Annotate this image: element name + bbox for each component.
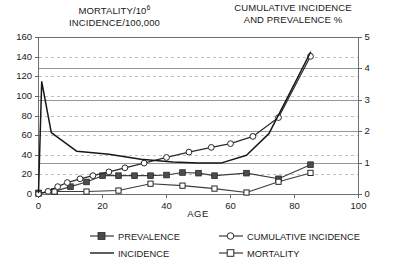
legend-item-incidence: INCIDENCE <box>90 248 169 260</box>
y-right-tick-label: 4 <box>365 62 387 73</box>
y-left-tick-label: 120 <box>2 70 32 81</box>
x-tick-label: 100 <box>344 200 374 211</box>
legend-label-incidence: INCIDENCE <box>118 249 169 259</box>
x-tick-label: 40 <box>152 200 182 211</box>
x-tick-label: 80 <box>280 200 310 211</box>
y-right-tick-label: 0 <box>365 188 387 199</box>
legend-label-prevalence: PREVALENCE <box>118 232 180 242</box>
y-left-tick-label: 60 <box>2 129 32 140</box>
x-tick-label: 60 <box>216 200 246 211</box>
y-right-tick-label: 1 <box>365 157 387 168</box>
y-right-tick-label: 2 <box>365 125 387 136</box>
legend-label-mortality: MORTALITY <box>247 249 299 259</box>
y-right-tick-label: 3 <box>365 94 387 105</box>
open-square-marker <box>219 248 243 260</box>
y-left-tick-label: 160 <box>2 31 32 42</box>
y-left-tick-label: 100 <box>2 90 32 101</box>
legend-item-mortality: MORTALITY <box>219 248 299 260</box>
y-right-tick-label: 5 <box>365 31 387 42</box>
chart-legend: PREVALENCE CUMULATIVE INCIDENCE INCIDENC… <box>72 231 334 265</box>
legend-label-cumulative-incidence: CUMULATIVE INCIDENCE <box>247 232 360 242</box>
y-left-tick-label: 20 <box>2 168 32 179</box>
legend-item-cumulative-incidence: CUMULATIVE INCIDENCE <box>219 231 360 243</box>
x-tick-label: 20 <box>88 200 118 211</box>
plain-line-marker <box>90 248 114 260</box>
y-left-tick-label: 40 <box>2 149 32 160</box>
legend-item-prevalence: PREVALENCE <box>90 231 180 243</box>
y-left-tick-label: 0 <box>2 188 32 199</box>
x-tick-label: 0 <box>24 200 54 211</box>
y-left-tick-label: 140 <box>2 51 32 62</box>
chart-figure: MORTALITY/106INCIDENCE/100,000 CUMULATIV… <box>0 0 407 273</box>
y-left-tick-label: 80 <box>2 110 32 121</box>
open-circle-marker <box>219 231 243 243</box>
filled-square-marker <box>90 231 114 243</box>
